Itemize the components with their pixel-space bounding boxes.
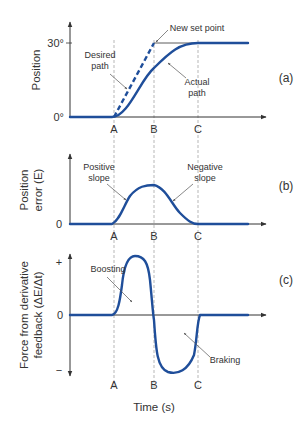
positive-slope-label: Positive — [83, 162, 115, 172]
tick-minus: − — [56, 364, 62, 376]
desired-path-curve — [114, 43, 154, 117]
panel-c: Force from derivative feedback (ΔE/Δt) +… — [18, 254, 293, 391]
mark-b: B — [150, 230, 157, 242]
boosting-label: Boosting — [90, 264, 125, 274]
svg-text:slope: slope — [88, 173, 110, 183]
panel-b: Position error (E) 0 Positive slope Nega… — [18, 154, 293, 242]
tick-0: 0 — [57, 309, 63, 321]
mark-b: B — [150, 123, 157, 135]
tick-0: 0 — [56, 218, 62, 230]
panel-a: Position 30° 0° Desired path New set poi… — [30, 22, 293, 135]
tick-plus: + — [56, 256, 62, 268]
y-axis-label-1: Position — [18, 170, 30, 211]
braking-label: Braking — [210, 355, 241, 365]
desired-path-label: Desired — [84, 50, 115, 60]
y-axis-label: Position — [30, 50, 42, 91]
y-axis-label-2: error (E) — [32, 168, 44, 211]
svg-text:slope: slope — [194, 173, 216, 183]
x-axis-label: Time (s) — [133, 401, 175, 413]
derivative-feedback-figure: Position 30° 0° Desired path New set poi… — [0, 0, 307, 430]
mark-a: A — [110, 379, 118, 391]
negative-slope-label: Negative — [187, 162, 223, 172]
svg-text:path: path — [91, 61, 109, 71]
y-axis-label-1: Force from derivative — [18, 261, 30, 369]
mark-c: C — [194, 123, 202, 135]
svg-text:path: path — [188, 88, 206, 98]
tick-30: 30° — [47, 37, 64, 49]
panel-a-tag: (a) — [279, 71, 294, 85]
mark-c: C — [194, 230, 202, 242]
position-error-curve — [70, 185, 248, 224]
set-point-label: New set point — [170, 23, 225, 33]
mark-a: A — [110, 123, 118, 135]
actual-path-label: Actual — [184, 77, 209, 87]
tick-0: 0° — [53, 111, 64, 123]
mark-a: A — [110, 230, 118, 242]
mark-b: B — [150, 379, 157, 391]
mark-c: C — [194, 379, 202, 391]
panel-c-tag: (c) — [279, 273, 293, 287]
panel-b-tag: (b) — [279, 179, 294, 193]
y-axis-label-2: feedback (ΔE/Δt) — [32, 271, 44, 358]
